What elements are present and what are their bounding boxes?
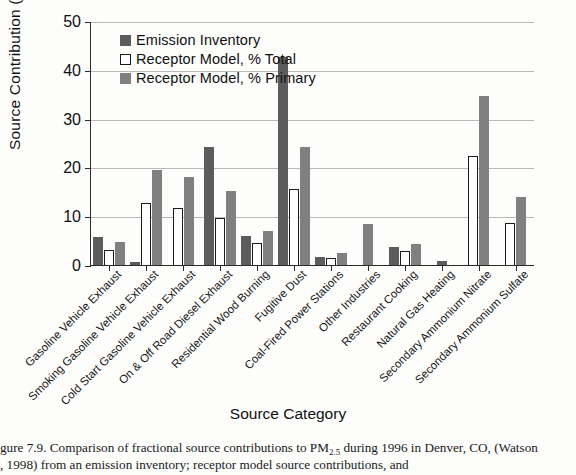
x-axis-title: Source Category [0, 405, 576, 423]
legend-swatch-receptor-total [120, 54, 131, 65]
legend-label-receptor-primary: Receptor Model, % Primary [136, 70, 316, 86]
x-axis-label: Smoking Gasoline Vehicle Exhaust [25, 268, 160, 403]
y-axis-tick-label: 10 [63, 208, 81, 226]
legend-label-receptor-total: Receptor Model, % Total [136, 51, 296, 67]
x-axis-tick [442, 265, 443, 271]
y-axis-tick-label: 0 [72, 257, 81, 275]
legend-swatch-receptor-primary [120, 73, 131, 84]
bar-group [386, 22, 423, 265]
bar [516, 197, 526, 265]
bar [479, 96, 489, 265]
bar [337, 253, 347, 265]
bar [505, 223, 515, 265]
bar [278, 57, 288, 265]
x-axis-tick [331, 265, 332, 271]
x-axis-tick [294, 265, 295, 271]
chart-legend: Emission Inventory Receptor Model, % Tot… [120, 32, 316, 86]
x-axis-tick [479, 265, 480, 271]
bar [411, 244, 421, 265]
y-axis-tick [85, 266, 91, 267]
caption-line-1: gure 7.9. Comparison of fractional sourc… [0, 440, 538, 455]
legend-swatch-emission-inventory [120, 35, 131, 46]
bar [115, 242, 125, 265]
x-axis-tick [220, 265, 221, 271]
bar [400, 251, 410, 265]
bar [104, 250, 114, 265]
bar [300, 147, 310, 265]
bar [152, 170, 162, 265]
x-axis-label: Cold Start Gasoline Vehicle Exhaust [58, 268, 197, 407]
x-axis-tick [257, 265, 258, 271]
caption-line-2: , 1998) from an emission inventory; rece… [0, 457, 409, 472]
bar [173, 208, 183, 265]
bar [289, 189, 299, 265]
bar [326, 258, 336, 265]
y-axis-title: Source Contribution (%) [6, 0, 24, 150]
bar-group [313, 22, 350, 265]
bar [468, 156, 478, 265]
caption-body-2: during 1996 in Denver, CO, (Watson [340, 440, 538, 455]
x-axis-tick [368, 265, 369, 271]
y-axis-tick-label: 40 [63, 62, 81, 80]
figure-container: Source Contribution (%) 01020304050 Emis… [0, 0, 576, 475]
bar [184, 177, 194, 265]
x-axis-tick [109, 265, 110, 271]
legend-item-receptor-primary: Receptor Model, % Primary [120, 70, 316, 86]
figure-caption: gure 7.9. Comparison of fractional sourc… [0, 440, 576, 475]
x-axis-tick [405, 265, 406, 271]
caption-figure-number: gure 7.9. [0, 440, 47, 455]
bar-group [497, 22, 534, 265]
y-axis-tick-label: 30 [63, 111, 81, 129]
bar [315, 257, 325, 265]
bar [241, 236, 251, 265]
bar-group [349, 22, 386, 265]
bar [263, 231, 273, 265]
y-axis-tick-label: 50 [63, 13, 81, 31]
bar-group [423, 22, 460, 265]
bar [93, 237, 103, 265]
x-axis-tick [516, 265, 517, 271]
legend-item-receptor-total: Receptor Model, % Total [120, 51, 316, 67]
legend-label-emission-inventory: Emission Inventory [136, 32, 260, 48]
bar [363, 224, 373, 265]
caption-subscript: 2.5 [329, 447, 340, 457]
bar [389, 247, 399, 265]
bar [130, 262, 140, 265]
y-axis-tick-label: 20 [63, 159, 81, 177]
bar-group [460, 22, 497, 265]
x-axis-tick [146, 265, 147, 271]
bar [204, 147, 214, 265]
bar [252, 243, 262, 265]
caption-body: Comparison of fractional source contribu… [47, 440, 329, 455]
bar [226, 191, 236, 265]
legend-item-emission-inventory: Emission Inventory [120, 32, 316, 48]
x-axis-tick [183, 265, 184, 271]
bar [215, 218, 225, 265]
bar [141, 203, 151, 265]
